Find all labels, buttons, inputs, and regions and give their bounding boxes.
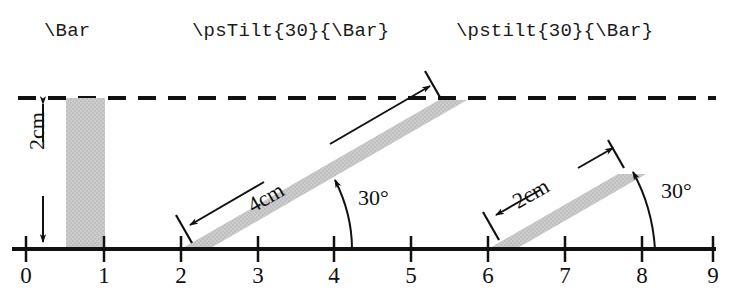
angle-label-right: 30° bbox=[661, 178, 692, 204]
pstricks-bar-tilt-figure: \Bar \psTilt{30}{\Bar} \pstilt{30}{\Bar}… bbox=[0, 0, 729, 302]
angle-indicator-right bbox=[633, 172, 655, 249]
axis-tick-label-6: 6 bbox=[476, 263, 500, 289]
axis-tick-label-8: 8 bbox=[630, 263, 654, 289]
macro-label-pstilt-lowercase: \pstilt{30}{\Bar} bbox=[456, 20, 653, 42]
angle-indicator-middle bbox=[335, 180, 352, 249]
axis-tick-label-0: 0 bbox=[14, 263, 38, 289]
height-dimension-label: 2cm bbox=[24, 112, 50, 150]
axis-tick-label-1: 1 bbox=[92, 263, 116, 289]
axis-tick-label-9: 9 bbox=[701, 263, 725, 289]
tilted-bar-pstilt-lowercase-shape bbox=[488, 174, 646, 249]
axis-tick-label-7: 7 bbox=[553, 263, 577, 289]
vertical-bar-shape bbox=[66, 98, 105, 248]
figure-canvas bbox=[0, 0, 729, 302]
axis-tick-label-2: 2 bbox=[169, 263, 193, 289]
angle-label-middle: 30° bbox=[358, 185, 389, 211]
macro-label-pstilt-capital: \psTilt{30}{\Bar} bbox=[192, 20, 389, 42]
axis-tick-label-5: 5 bbox=[399, 263, 423, 289]
macro-label-bar: \Bar bbox=[44, 20, 90, 42]
baseline-axis bbox=[12, 236, 716, 262]
tilted-bar-pstilt-capital-shape bbox=[181, 100, 467, 249]
axis-tick-label-4: 4 bbox=[322, 263, 346, 289]
axis-tick-label-3: 3 bbox=[246, 263, 270, 289]
